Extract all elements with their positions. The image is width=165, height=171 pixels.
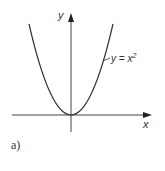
y-axis-label: y	[58, 10, 64, 21]
figure-caption: a)	[11, 139, 20, 151]
y-axis-arrow-icon	[68, 13, 74, 22]
curve-label-text: y = x	[111, 53, 132, 64]
x-axis-label: x	[143, 119, 149, 130]
curve-label: y = x2	[111, 52, 136, 64]
curve-label-exponent: 2	[132, 52, 136, 59]
parabola-diagram	[0, 0, 165, 171]
